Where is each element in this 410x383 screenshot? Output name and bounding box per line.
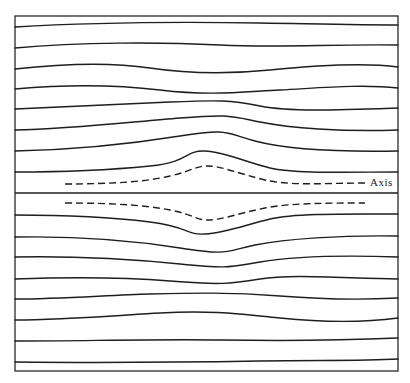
streamline-above-3 [15,64,398,72]
streamline-above-5 [15,101,398,110]
streamline-above-1 [15,22,398,27]
streamline-below-8 [15,359,398,362]
streamline-above-6 [15,116,398,131]
streamlines-above-axis [15,22,398,172]
streamline-below-7 [15,338,398,341]
streamline-above-8 [15,151,398,172]
streamline-below-5 [15,293,398,299]
streamline-below-3 [15,256,398,267]
streamline-above-2 [15,43,398,48]
streamline-above-7 [15,132,398,151]
streamline-below-1 [15,214,398,234]
streamline-diagram: Axis [0,0,410,383]
streamline-below-6 [15,312,398,321]
axis-label: Axis [370,176,393,188]
streamlines-below-axis [15,214,398,362]
streamline-below-4 [15,277,398,284]
streamline-below-2 [15,236,398,252]
streamline-above-4 [15,86,398,93]
